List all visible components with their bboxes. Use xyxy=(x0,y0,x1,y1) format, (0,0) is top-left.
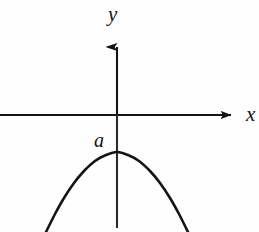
x-axis-label: x xyxy=(246,104,255,125)
vertex-label-a: a xyxy=(94,130,104,150)
figure-canvas xyxy=(0,0,259,232)
y-axis-label: y xyxy=(108,4,117,25)
parabola-figure: y x a xyxy=(0,0,259,232)
